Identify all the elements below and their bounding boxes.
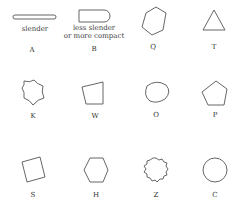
label-c: C xyxy=(205,191,225,199)
label-t: T xyxy=(204,43,224,51)
label-w: W xyxy=(85,112,105,120)
label-q: Q xyxy=(143,43,163,51)
shape-s-square xyxy=(22,157,45,182)
shape-q-hexagon xyxy=(142,7,166,35)
shape-p-pentagon xyxy=(202,81,227,105)
shape-b-d-shape xyxy=(79,10,110,22)
shape-t-triangle xyxy=(203,10,225,30)
shape-o-blob xyxy=(146,82,169,102)
label-h: H xyxy=(86,191,106,199)
shape-w-quadrilateral xyxy=(82,82,103,104)
label-b: B xyxy=(84,45,104,53)
label-k: K xyxy=(23,112,43,120)
caption-less-slender: less slender xyxy=(66,24,122,32)
label-o: O xyxy=(146,111,166,119)
label-s: S xyxy=(23,191,43,199)
label-a: A xyxy=(22,46,42,54)
shape-c-circle xyxy=(203,158,227,182)
caption-more-compact: or more compact xyxy=(62,32,126,40)
shape-k-concave-star xyxy=(22,80,44,105)
shape-z-scalloped-circle xyxy=(144,158,168,182)
shape-a-slender-bar xyxy=(13,15,56,19)
label-z: Z xyxy=(146,191,166,199)
shape-h-hexagon xyxy=(84,158,108,182)
label-p: P xyxy=(205,111,225,119)
caption-slender: slender xyxy=(14,25,56,33)
